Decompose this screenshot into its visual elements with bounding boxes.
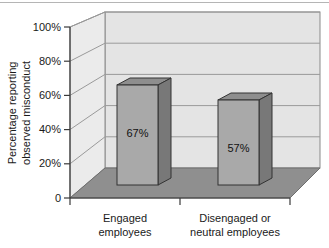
x-category-1-line1: Engaged — [103, 212, 147, 224]
y-axis-title: Percentage reporting observed misconduct — [6, 61, 32, 165]
y-tick-label-80: 80% — [39, 55, 61, 67]
x-category-label-engaged: Engaged employees — [98, 212, 152, 238]
bar-1-value-label: 67% — [126, 127, 148, 139]
bar-2-value-label: 57% — [227, 142, 249, 154]
chart-container: 100% 80% 60% 40% 20% 0 Percentage report… — [0, 0, 329, 248]
bar-engaged-employees[interactable]: 67% — [117, 78, 171, 185]
y-tick-label-20: 20% — [39, 157, 61, 169]
y-axis-ticks — [64, 27, 70, 198]
y-tick-label-60: 60% — [39, 89, 61, 101]
y-axis-title-line2: observed misconduct — [20, 61, 32, 165]
y-tick-label-0: 0 — [55, 192, 61, 204]
y-tick-label-100: 100% — [33, 21, 61, 33]
x-axis-ticks — [70, 198, 290, 205]
plot-floor — [70, 168, 320, 198]
bar-1-side-face — [158, 78, 171, 185]
y-axis-title-line1: Percentage reporting — [6, 62, 18, 165]
bar-disengaged-neutral-employees[interactable]: 57% — [218, 93, 272, 185]
plot-left-wall — [70, 12, 105, 198]
x-category-1-line2: employees — [98, 226, 152, 238]
bar-chart-3d: 100% 80% 60% 40% 20% 0 Percentage report… — [0, 0, 329, 248]
bar-2-side-face — [259, 93, 272, 185]
x-category-2-line2: neutral employees — [190, 226, 280, 238]
x-category-2-line1: Disengaged or — [199, 212, 271, 224]
y-tick-label-40: 40% — [39, 123, 61, 135]
x-category-label-disengaged: Disengaged or neutral employees — [190, 212, 280, 238]
